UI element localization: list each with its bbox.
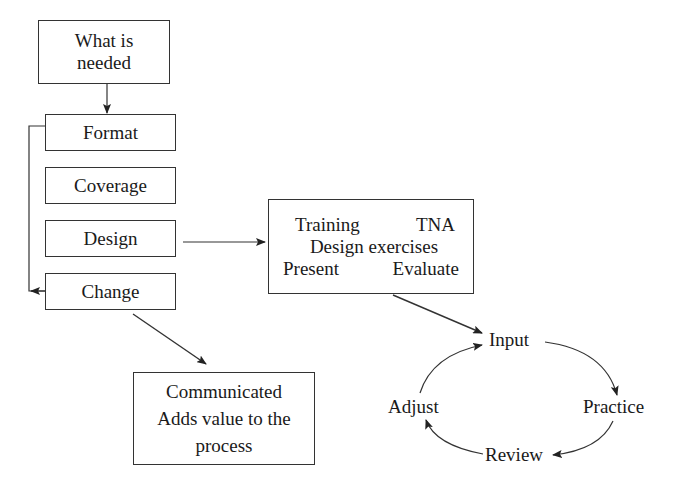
arrow-input-to-practice	[545, 342, 617, 395]
design-exercises-label: Design exercises	[304, 236, 438, 258]
format-box: Format	[45, 114, 176, 151]
cycle-node-input: Input	[489, 329, 529, 351]
arrow-review-to-adjust	[426, 420, 483, 454]
coverage-box: Coverage	[45, 167, 176, 204]
what-is-needed-box: What is needed	[38, 20, 170, 84]
cycle-node-practice: Practice	[583, 396, 644, 418]
training-label: Training	[295, 214, 360, 236]
evaluate-label: Evaluate	[393, 258, 459, 280]
outcome-line1: Communicated	[166, 378, 282, 405]
tna-label: TNA	[416, 214, 455, 236]
cycle-node-review: Review	[485, 444, 543, 466]
present-label: Present	[283, 258, 339, 280]
what-is-needed-line2: needed	[77, 52, 131, 74]
training-box: Training TNA Design exercises Present Ev…	[268, 199, 474, 294]
format-label: Format	[83, 122, 138, 144]
arrow-adjust-to-input	[420, 345, 482, 393]
change-label: Change	[81, 281, 139, 303]
outcome-box: Communicated Adds value to the process	[133, 372, 315, 465]
arrow-change-to-outcome	[133, 314, 206, 364]
coverage-label: Coverage	[74, 175, 147, 197]
arrow-training-to-input	[393, 295, 482, 333]
change-box: Change	[45, 273, 176, 310]
outcome-line2: Adds value to the	[157, 405, 291, 432]
arrow-practice-to-review	[553, 421, 613, 455]
design-box: Design	[45, 220, 176, 257]
cycle-node-adjust: Adjust	[388, 396, 439, 418]
outcome-line3: process	[196, 432, 253, 459]
what-is-needed-line1: What is	[75, 30, 134, 52]
design-label: Design	[84, 228, 138, 250]
